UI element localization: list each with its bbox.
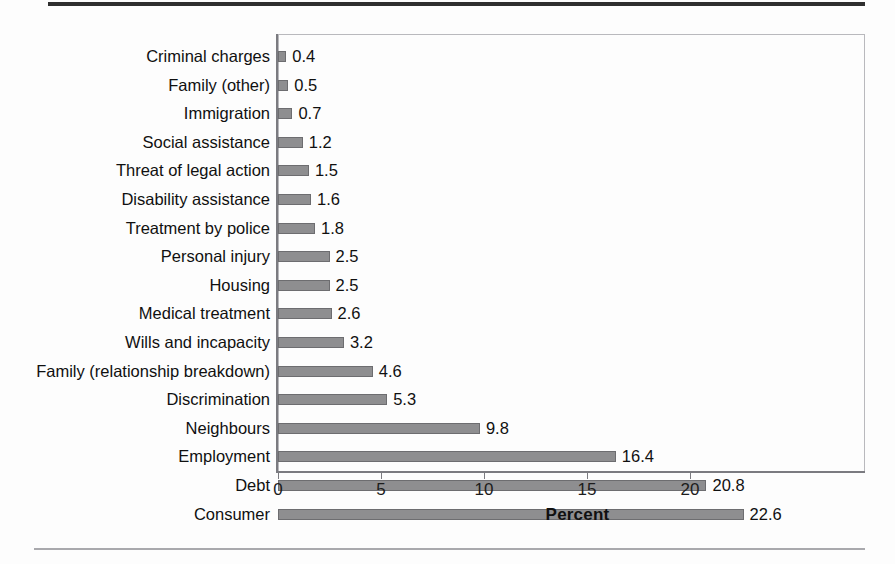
bar-value-label: 20.8 bbox=[712, 473, 744, 497]
bar-value-label: 1.8 bbox=[321, 216, 344, 240]
bar-row: Immigration0.7 bbox=[0, 101, 895, 125]
bar-value-label: 1.2 bbox=[309, 130, 332, 154]
bar-row: Family (relationship breakdown)4.6 bbox=[0, 359, 895, 383]
bar-value-label: 2.5 bbox=[336, 244, 359, 268]
page-bottom-rule bbox=[34, 548, 865, 550]
bar-row: Disability assistance1.6 bbox=[0, 187, 895, 211]
x-axis-title-text: Percent bbox=[546, 505, 610, 524]
bar bbox=[278, 251, 330, 262]
category-label: Criminal charges bbox=[146, 44, 270, 68]
bar-row: Employment16.4 bbox=[0, 444, 895, 468]
axis-tick-label: 5 bbox=[376, 480, 385, 500]
axis-tick-label: 15 bbox=[578, 480, 597, 500]
category-label: Family (relationship breakdown) bbox=[36, 359, 270, 383]
category-label: Immigration bbox=[184, 101, 270, 125]
bar-value-label: 9.8 bbox=[486, 416, 509, 440]
category-label: Neighbours bbox=[186, 416, 270, 440]
category-label: Family (other) bbox=[168, 73, 270, 97]
bar-value-label: 4.6 bbox=[379, 359, 402, 383]
bar-row: Treatment by police1.8 bbox=[0, 216, 895, 240]
bar bbox=[278, 337, 344, 348]
bar-row: Personal injury2.5 bbox=[0, 244, 895, 268]
bar-value-label: 2.6 bbox=[338, 301, 361, 325]
axis-tick-mark bbox=[690, 472, 691, 479]
bar bbox=[278, 194, 311, 205]
axis-tick-label: 0 bbox=[273, 480, 282, 500]
bar-value-label: 16.4 bbox=[622, 444, 654, 468]
bar-value-label: 5.3 bbox=[393, 387, 416, 411]
bar-row: Housing2.5 bbox=[0, 273, 895, 297]
bar bbox=[278, 423, 480, 434]
bar-row: Medical treatment2.6 bbox=[0, 301, 895, 325]
bar-row: Criminal charges0.4 bbox=[0, 44, 895, 68]
axis-tick-mark bbox=[381, 472, 382, 479]
bar-row: Threat of legal action1.5 bbox=[0, 158, 895, 182]
axis-tick-label: 10 bbox=[475, 480, 494, 500]
axis-tick-mark bbox=[587, 472, 588, 479]
bar-value-label: 3.2 bbox=[350, 330, 373, 354]
bar-value-label: 1.5 bbox=[315, 158, 338, 182]
bar bbox=[278, 366, 373, 377]
bar bbox=[278, 165, 309, 176]
bar-row: Discrimination5.3 bbox=[0, 387, 895, 411]
bar bbox=[278, 451, 616, 462]
axis-tick-label: 20 bbox=[681, 480, 700, 500]
category-label: Debt bbox=[235, 473, 270, 497]
category-label: Treatment by police bbox=[126, 216, 270, 240]
category-label: Social assistance bbox=[143, 130, 270, 154]
category-label: Wills and incapacity bbox=[125, 330, 270, 354]
bar bbox=[278, 280, 330, 291]
bar bbox=[278, 308, 332, 319]
category-label: Housing bbox=[209, 273, 270, 297]
bar bbox=[278, 108, 292, 119]
category-label: Employment bbox=[178, 444, 270, 468]
bar-row: Social assistance1.2 bbox=[0, 130, 895, 154]
category-label: Discrimination bbox=[166, 387, 270, 411]
bar-row: Family (other)0.5 bbox=[0, 73, 895, 97]
bar-row: Debt20.8 bbox=[0, 473, 895, 497]
axis-tick-mark bbox=[484, 472, 485, 479]
bar-value-label: 2.5 bbox=[336, 273, 359, 297]
page-top-rule bbox=[48, 2, 865, 6]
category-label: Disability assistance bbox=[121, 187, 270, 211]
bar bbox=[278, 51, 286, 62]
bar-row: Wills and incapacity3.2 bbox=[0, 330, 895, 354]
category-label: Medical treatment bbox=[139, 301, 270, 325]
bar bbox=[278, 223, 315, 234]
bar-value-label: 0.7 bbox=[298, 101, 321, 125]
bar bbox=[278, 394, 387, 405]
x-axis-title: Percent bbox=[0, 505, 895, 525]
chart-page: Criminal charges0.4Family (other)0.5Immi… bbox=[0, 0, 895, 564]
bar-value-label: 0.5 bbox=[294, 73, 317, 97]
bar bbox=[278, 137, 303, 148]
bar-row: Neighbours9.8 bbox=[0, 416, 895, 440]
bar bbox=[278, 80, 288, 91]
axis-tick-mark bbox=[278, 472, 279, 479]
category-label: Personal injury bbox=[161, 244, 270, 268]
bar-value-label: 0.4 bbox=[292, 44, 315, 68]
bar-value-label: 1.6 bbox=[317, 187, 340, 211]
category-label: Threat of legal action bbox=[116, 158, 270, 182]
